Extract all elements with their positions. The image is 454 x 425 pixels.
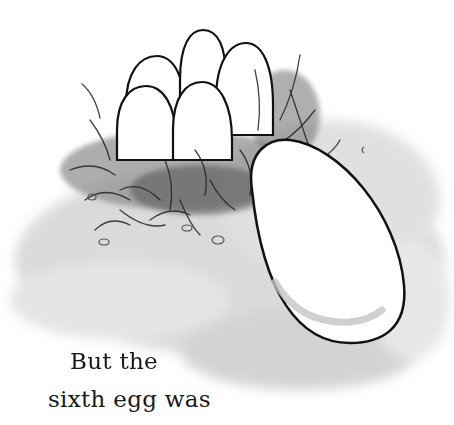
caption-line-2: sixth egg was <box>48 386 211 412</box>
book-page: But the sixth egg was <box>0 0 454 425</box>
caption-line-1: But the <box>70 348 158 374</box>
nest-illustration <box>0 0 454 425</box>
